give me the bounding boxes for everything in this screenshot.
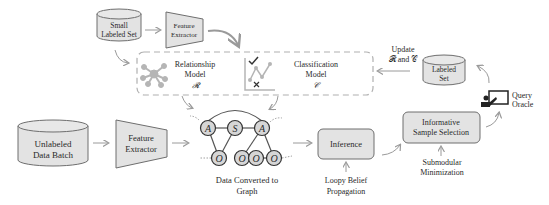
svg-text:A: A xyxy=(204,123,212,134)
arrow-relationship-to-graph xyxy=(182,96,192,108)
arrow-inference-to-selection xyxy=(382,145,400,155)
small-labeled-set-cylinder: Small Labeled Set xyxy=(97,9,141,41)
feature-extractor-top-label-1: Feature xyxy=(174,22,195,30)
check-icon xyxy=(249,57,258,64)
classification-chart-icon xyxy=(245,57,275,90)
graph-caption-1: Data Converted to xyxy=(216,175,278,185)
graph-node-o1: O xyxy=(212,151,227,166)
feature-extractor-top-label-2: Extractor xyxy=(171,31,198,39)
cross-icon xyxy=(254,82,259,87)
update-label-2: 𝓡 and 𝒞 xyxy=(389,54,419,64)
svg-text:O: O xyxy=(215,153,222,164)
inference-label: Inference xyxy=(330,139,362,149)
labeled-set-cylinder: Labeled Set xyxy=(423,55,465,85)
classification-model-label-1: Classification xyxy=(294,60,338,69)
models-container xyxy=(137,52,373,95)
loopy-label-1: Loopy Belief xyxy=(325,176,368,185)
graph-node-a2: A xyxy=(255,121,270,136)
arrow-small-set-to-relationship xyxy=(115,50,128,63)
loopy-label-2: Propagation xyxy=(327,187,366,196)
classification-model-label-2: Model xyxy=(306,70,328,79)
arrow-oracle-to-labeled-set xyxy=(478,66,489,83)
feature-extractor-bottom-label-1: Feature xyxy=(128,133,154,143)
svg-text:O: O xyxy=(238,153,245,164)
query-oracle-label-1: Query xyxy=(512,91,532,100)
network-icon xyxy=(141,64,168,88)
submodular-label-2: Minimization xyxy=(420,168,464,177)
classification-model-symbol: 𝒞 xyxy=(313,81,321,90)
graph: A S A O O O O xyxy=(190,111,292,166)
query-oracle-label-2: Oracle xyxy=(512,100,534,109)
arrow-selection-to-oracle xyxy=(486,113,499,127)
oracle-presenter-icon xyxy=(481,91,508,107)
svg-text:O: O xyxy=(270,153,277,164)
unlabeled-data-batch-cylinder: Unlabeled Data Batch xyxy=(18,120,88,166)
sample-selection-label-1: Informative xyxy=(422,118,460,127)
update-label-1: Update xyxy=(391,45,415,54)
svg-text:S: S xyxy=(233,123,238,134)
graph-caption-2: Graph xyxy=(236,186,258,196)
small-labeled-set-label-2: Labeled Set xyxy=(101,30,138,39)
svg-text:A: A xyxy=(258,123,266,134)
submodular-label-1: Submodular xyxy=(422,158,461,167)
sample-selection-label-2: Sample Selection xyxy=(413,128,469,137)
graph-node-o2: O xyxy=(235,151,250,166)
labeled-set-label-2: Set xyxy=(439,74,450,83)
arrow-extractor-to-classification xyxy=(208,31,238,45)
graph-node-o4: O xyxy=(267,151,282,166)
labeled-set-label-1: Labeled xyxy=(432,65,456,74)
svg-text:O: O xyxy=(252,153,259,164)
feature-extractor-bottom: Feature Extractor xyxy=(116,120,167,168)
pipeline-diagram: Small Labeled Set Feature Extractor Rela… xyxy=(0,0,549,205)
relationship-model-label-1: Relationship xyxy=(175,60,215,69)
unlabeled-batch-label-1: Unlabeled xyxy=(35,139,72,149)
graph-node-a1: A xyxy=(201,121,216,136)
graph-node-o3: O xyxy=(249,151,264,166)
feature-extractor-top: Feature Extractor xyxy=(166,12,203,48)
arrow-classification-to-graph xyxy=(270,96,278,109)
unlabeled-batch-label-2: Data Batch xyxy=(33,150,74,160)
relationship-model-label-2: Model xyxy=(185,70,207,79)
graph-node-s: S xyxy=(228,121,243,136)
relationship-model-symbol: 𝓡 xyxy=(192,81,201,90)
small-labeled-set-label-1: Small xyxy=(110,21,128,30)
feature-extractor-bottom-label-2: Extractor xyxy=(125,144,157,154)
